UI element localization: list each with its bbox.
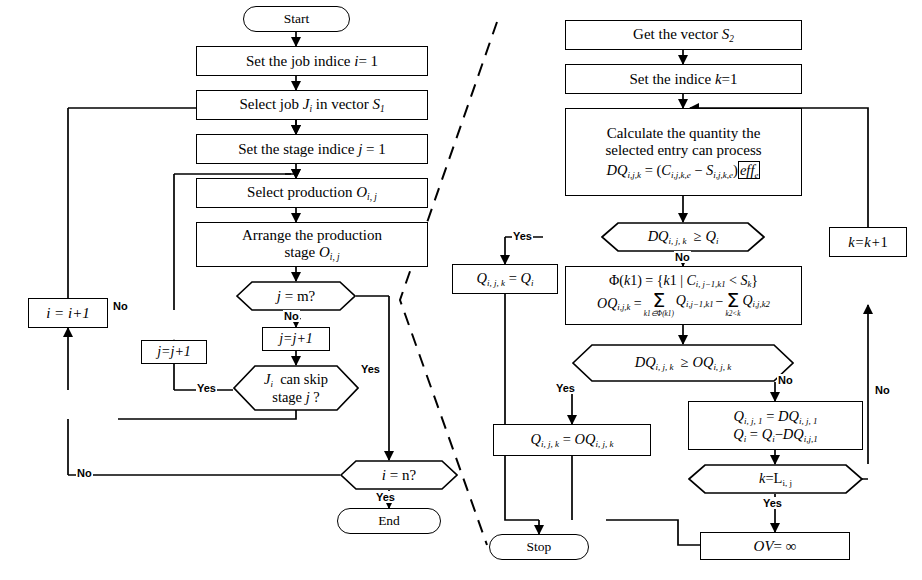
edge-label-j-eq-m-yes: Yes: [360, 363, 381, 375]
node-decision-dq-ge-oq-label: DQi, j, k ≥ OQi, j, k: [572, 354, 794, 372]
node-assign-dq[interactable]: Qi, j, 1 = DQi, j, 1 Qi = Qi−DQi,j,1: [688, 401, 863, 450]
node-phi-line2: OQi,j,k = Σ k1∈Φ(k1) Qi,j−1,k1 − Σ k2<k …: [563, 291, 804, 317]
node-set-indice-k[interactable]: Set the indice k=1: [565, 64, 802, 94]
node-phi-oq-formula[interactable]: Φ(k1) = {k1 | Ci, j−1,k1 < Sk} OQi,j,k =…: [565, 266, 802, 325]
node-increment-j-inner[interactable]: j=j+1: [262, 327, 330, 351]
node-stop[interactable]: Stop: [489, 534, 589, 560]
summation-2: Σ k2<k: [725, 291, 740, 317]
node-assign-q[interactable]: Qi, j, k = Qi: [452, 264, 558, 294]
node-decision-skip-stage[interactable]: Ji can skipstage j ?: [233, 365, 359, 411]
node-increment-k[interactable]: k=k+1: [829, 227, 907, 257]
node-increment-i[interactable]: i = i+1: [28, 298, 108, 328]
edge-label-i-eq-n-no: No: [76, 467, 93, 479]
node-assign-oq-label: Qi, j, k = OQi, j, k: [494, 431, 650, 449]
node-increment-j-inner-label: j=j+1: [263, 331, 329, 347]
node-start-label: Start: [244, 11, 349, 26]
node-increment-k-label: k=k+1: [830, 234, 906, 250]
edge-label-i-eq-n-yes: Yes: [375, 491, 396, 503]
node-decision-j-eq-m[interactable]: j = m?: [236, 281, 356, 311]
node-end[interactable]: End: [337, 508, 441, 534]
edge-label-k-eq-L-yes: Yes: [762, 497, 783, 509]
node-decision-i-eq-n[interactable]: i = n?: [340, 460, 458, 490]
node-set-stage-indice-label: Set the stage indice j = 1: [197, 141, 427, 158]
node-calculate-quantity-formula: DQi,j,k = (Ci,j,k,e − Si,j,k,e)effe: [563, 162, 804, 180]
node-decision-dq-ge-q-label: DQi, j, k ≥ Qi: [601, 228, 765, 246]
node-select-job[interactable]: Select job Ji in vector S1: [196, 90, 428, 120]
node-calculate-quantity-label: Calculate the quantity theselected entry…: [563, 125, 804, 159]
node-ov-infinity[interactable]: OV= ∞: [700, 532, 850, 560]
edge-label-skip-yes: Yes: [196, 382, 217, 394]
node-stop-label: Stop: [490, 539, 588, 554]
node-select-job-label: Select job Ji in vector S1: [197, 96, 427, 114]
node-assign-q-label: Qi, j, k = Qi: [453, 270, 557, 288]
node-increment-i-label: i = i+1: [29, 305, 107, 322]
minus-sign: −: [716, 294, 724, 310]
node-ov-infinity-label: OV= ∞: [701, 538, 849, 555]
node-end-label: End: [338, 513, 440, 528]
node-start[interactable]: Start: [243, 6, 350, 32]
node-select-production[interactable]: Select production Oi, j: [196, 178, 428, 208]
edge-label-inc-i-no: No: [112, 300, 129, 312]
node-decision-dq-ge-q[interactable]: DQi, j, k ≥ Qi: [601, 222, 765, 252]
node-assign-oq[interactable]: Qi, j, k = OQi, j, k: [493, 424, 651, 456]
node-calculate-quantity[interactable]: Calculate the quantity theselected entry…: [565, 108, 802, 196]
node-increment-j-outer[interactable]: j=j+1: [141, 340, 207, 364]
node-increment-j-outer-label: j=j+1: [142, 344, 206, 360]
summation-1-limit: k1∈Φ(k1): [644, 311, 674, 318]
node-set-job-indice-label: Set the job indice i= 1: [197, 53, 427, 70]
node-decision-i-eq-n-label: i = n?: [340, 467, 458, 484]
edge-label-dq-ge-oq-no: No: [777, 374, 794, 386]
edge-label-j-eq-m-no: No: [283, 310, 300, 322]
node-phi-line1: Φ(k1) = {k1 | Ci, j−1,k1 < Sk}: [563, 273, 804, 290]
node-arrange-production[interactable]: Arrange the productionstage Oi, j: [196, 222, 428, 267]
node-decision-k-eq-L-label: k=Li, j: [688, 470, 863, 488]
node-arrange-production-label: Arrange the productionstage Oi, j: [197, 227, 427, 262]
node-assign-dq-line1: Qi, j, 1 = DQi, j, 1: [686, 408, 865, 426]
node-decision-k-eq-L[interactable]: k=Li, j: [688, 464, 863, 494]
node-set-job-indice[interactable]: Set the job indice i= 1: [196, 46, 428, 76]
node-decision-dq-ge-oq[interactable]: DQi, j, k ≥ OQi, j, k: [572, 344, 794, 382]
node-select-production-label: Select production Oi, j: [197, 184, 427, 202]
node-set-stage-indice[interactable]: Set the stage indice j = 1: [196, 134, 428, 164]
node-get-vector-label: Get the vector S2: [566, 26, 801, 44]
edge-label-dq-ge-q-yes: Yes: [512, 230, 533, 242]
node-decision-j-eq-m-label: j = m?: [236, 288, 356, 305]
node-phi-line2-lhs: OQi,j,k =: [597, 296, 642, 313]
node-set-indice-k-label: Set the indice k=1: [566, 71, 801, 88]
node-decision-skip-stage-label: Ji can skipstage j ?: [233, 371, 359, 405]
node-assign-dq-line2: Qi = Qi−DQi,j,1: [686, 426, 865, 444]
summation-1-term: Qi,j−1,k1: [676, 293, 714, 310]
node-get-vector[interactable]: Get the vector S2: [565, 20, 802, 50]
edge-label-k-eq-L-no: No: [874, 384, 891, 396]
edge-label-dq-ge-oq-yes: Yes: [555, 382, 576, 394]
summation-2-term: Qi,j,k2: [742, 293, 769, 310]
summation-1: Σ k1∈Φ(k1): [644, 291, 674, 317]
edge-label-dq-ge-q-no: No: [674, 251, 691, 263]
summation-2-limit: k2<k: [725, 311, 740, 318]
